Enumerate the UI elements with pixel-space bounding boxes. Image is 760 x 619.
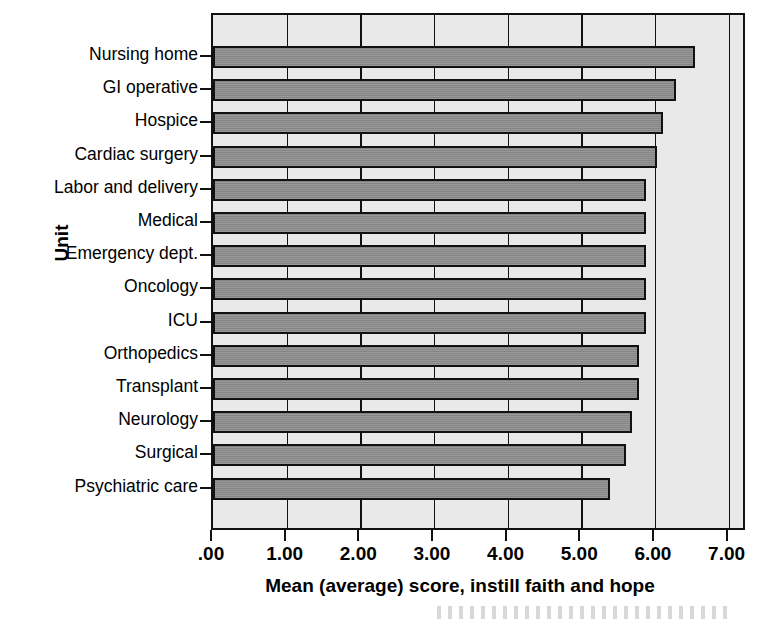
y-tick-mark — [200, 55, 211, 57]
y-tick-mark — [200, 121, 211, 123]
category-label: Medical — [28, 212, 198, 229]
x-tick-mark — [284, 530, 286, 541]
x-tick-label: 7.00 — [687, 543, 760, 565]
bar — [213, 112, 663, 134]
category-label: Psychiatric care — [28, 478, 198, 495]
bar — [213, 179, 646, 201]
bar — [213, 444, 626, 466]
plot-area — [211, 13, 745, 530]
x-tick-mark — [431, 530, 433, 541]
y-tick-mark — [200, 221, 211, 223]
x-tick-label: 1.00 — [245, 543, 325, 565]
y-tick-mark — [200, 354, 211, 356]
y-tick-mark — [200, 188, 211, 190]
y-tick-mark — [200, 287, 211, 289]
x-tick-mark — [505, 530, 507, 541]
bar — [213, 245, 646, 267]
x-tick-mark — [578, 530, 580, 541]
x-tick-label: 6.00 — [613, 543, 693, 565]
category-label: Emergency dept. — [28, 245, 198, 262]
bar — [213, 46, 695, 68]
x-tick-mark — [210, 530, 212, 541]
category-label: Hospice — [28, 112, 198, 129]
category-label: Oncology — [28, 278, 198, 295]
x-axis-tick-marks — [211, 530, 745, 542]
bar — [213, 312, 646, 334]
x-tick-mark — [726, 530, 728, 541]
bar — [213, 478, 610, 500]
plot-inner — [213, 15, 743, 528]
y-tick-mark — [200, 321, 211, 323]
bar — [213, 79, 676, 101]
bars-layer — [213, 15, 743, 528]
bar — [213, 345, 639, 367]
category-label: Surgical — [28, 444, 198, 461]
category-label: Cardiac surgery — [28, 146, 198, 163]
y-tick-mark — [200, 88, 211, 90]
category-label: Transplant — [28, 378, 198, 395]
bar — [213, 378, 639, 400]
category-label: Orthopedics — [28, 345, 198, 362]
y-tick-mark — [200, 155, 211, 157]
bar — [213, 146, 657, 168]
x-axis-title: Mean (average) score, instill faith and … — [170, 575, 750, 597]
x-tick-label: 4.00 — [466, 543, 546, 565]
x-tick-label: .00 — [171, 543, 251, 565]
x-tick-mark — [357, 530, 359, 541]
y-tick-mark — [200, 453, 211, 455]
category-label: ICU — [28, 312, 198, 329]
bar — [213, 278, 646, 300]
y-axis-category-labels: Nursing homeGI operativeHospiceCardiac s… — [28, 13, 198, 530]
category-label: Nursing home — [28, 46, 198, 63]
category-label: GI operative — [28, 79, 198, 96]
x-tick-mark — [652, 530, 654, 541]
y-tick-mark — [200, 387, 211, 389]
x-tick-label: 5.00 — [539, 543, 619, 565]
bar — [213, 212, 646, 234]
category-label: Neurology — [28, 411, 198, 428]
scan-artifact — [430, 606, 730, 619]
category-label: Labor and delivery — [28, 179, 198, 196]
y-tick-mark — [200, 487, 211, 489]
x-axis-tick-labels: .001.002.003.004.005.006.007.00 — [211, 543, 745, 569]
x-tick-label: 2.00 — [318, 543, 398, 565]
x-tick-label: 3.00 — [392, 543, 472, 565]
y-tick-mark — [200, 254, 211, 256]
horizontal-bar-chart: Unit Nursing homeGI operativeHospiceCard… — [0, 0, 760, 619]
y-tick-mark — [200, 420, 211, 422]
bar — [213, 411, 632, 433]
